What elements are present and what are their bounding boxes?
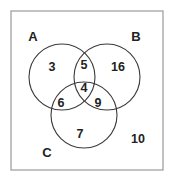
set-label-b: B <box>131 29 140 44</box>
region-value-b-only: 16 <box>111 60 125 74</box>
region-value-a-only: 3 <box>49 60 56 74</box>
region-value-c-only: 7 <box>77 127 84 141</box>
venn-diagram-canvas: A B C 3 5 16 4 6 9 7 10 <box>0 0 172 181</box>
region-value-ac-only: 6 <box>58 96 65 110</box>
region-value-ab-only: 5 <box>81 58 88 72</box>
set-label-c: C <box>42 145 52 160</box>
venn-diagram-figure: A B C 3 5 16 4 6 9 7 10 <box>0 0 172 181</box>
region-value-bc-only: 9 <box>95 96 102 110</box>
region-value-abc: 4 <box>81 81 88 95</box>
region-value-outside: 10 <box>131 132 145 146</box>
set-label-a: A <box>28 29 38 44</box>
